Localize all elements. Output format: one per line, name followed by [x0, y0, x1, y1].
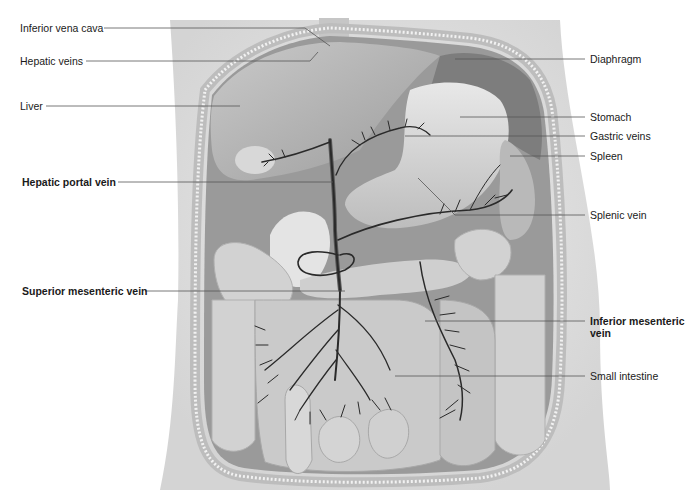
label-stomach: Stomach	[590, 111, 631, 123]
label-gastric-veins: Gastric veins	[590, 130, 651, 142]
label-hepatic-veins: Hepatic veins	[20, 55, 83, 67]
label-spleen: Spleen	[590, 150, 623, 162]
anatomy-illustration	[0, 0, 699, 498]
label-liver: Liver	[20, 100, 43, 112]
label-superior-mesenteric-vein: Superior mesenteric vein	[22, 285, 147, 297]
label-inferior-vena-cava: Inferior vena cava	[20, 22, 103, 34]
label-hepatic-portal-vein: Hepatic portal vein	[22, 176, 116, 188]
label-diaphragm: Diaphragm	[590, 53, 641, 65]
small-intestine	[255, 300, 495, 474]
label-inferior-mesenteric-vein: Inferior mesenteric vein	[590, 315, 695, 339]
label-splenic-vein: Splenic vein	[590, 209, 647, 221]
label-small-intestine: Small intestine	[590, 370, 658, 382]
